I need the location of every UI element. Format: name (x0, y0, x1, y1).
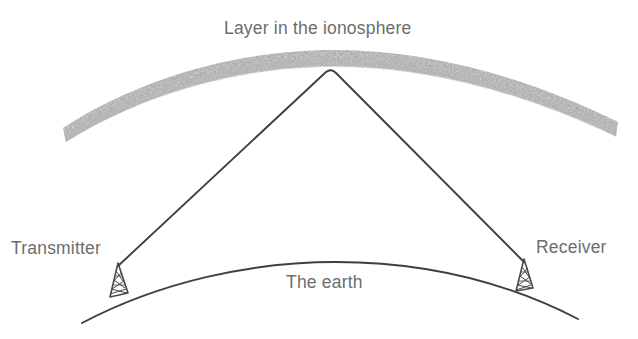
ionospheric-propagation-diagram: Layer in the ionosphere Transmitter Rece… (0, 0, 638, 339)
receiver-label: Receiver (536, 237, 607, 257)
transmitter-antenna-tower (110, 263, 128, 297)
ionosphere-layer-band (63, 50, 618, 142)
ionosphere-layer-label: Layer in the ionosphere (224, 18, 412, 38)
radio-signal-path (118, 70, 524, 266)
receiver-antenna-tower (516, 259, 533, 291)
transmitter-label: Transmitter (11, 238, 101, 258)
earth-label: The earth (286, 272, 363, 292)
